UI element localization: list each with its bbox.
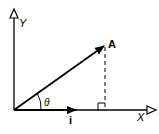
vector-a — [14, 46, 104, 110]
angle-theta-label: θ — [44, 97, 50, 108]
angle-arc — [38, 94, 42, 110]
x-axis-label: X — [136, 111, 145, 123]
x-axis-arrowhead-icon — [147, 106, 156, 114]
vector-a-label: A — [108, 38, 116, 50]
y-axis-arrowhead-icon — [10, 9, 18, 18]
y-axis — [10, 9, 18, 110]
vector-diagram: Y X A θ i — [0, 0, 159, 134]
right-angle-icon — [98, 103, 105, 110]
y-axis-label: Y — [19, 17, 27, 29]
unit-vector-i-label: i — [69, 114, 72, 126]
